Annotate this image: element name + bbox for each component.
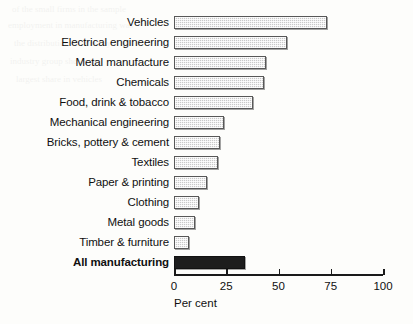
axis-tick xyxy=(226,269,228,275)
axis-tick-label: 50 xyxy=(272,280,285,292)
category-label: Electrical engineering xyxy=(61,33,169,53)
bar-row: Food, drink & tobacco xyxy=(0,93,413,113)
bar-track xyxy=(174,153,404,173)
bar-track xyxy=(174,53,404,73)
bar xyxy=(174,216,195,229)
bar-row: Chemicals xyxy=(0,73,413,93)
category-label: Mechanical engineering xyxy=(50,113,169,133)
bar-row: All manufacturing xyxy=(0,253,413,273)
bar-track xyxy=(174,213,404,233)
bar xyxy=(174,116,224,129)
bar-row: Metal manufacture xyxy=(0,53,413,73)
axis-tick xyxy=(331,269,333,275)
category-label: Metal goods xyxy=(107,213,169,233)
bar-row: Bricks, pottery & cement xyxy=(0,133,413,153)
bar xyxy=(174,236,189,249)
bar xyxy=(174,196,199,209)
bar-track xyxy=(174,33,404,53)
axis-tick xyxy=(279,269,281,275)
axis-tick-label: 0 xyxy=(171,280,177,292)
bar xyxy=(174,16,327,29)
bar xyxy=(174,136,220,149)
bar-row: Textiles xyxy=(0,153,413,173)
x-axis: 0255075100 xyxy=(174,274,383,275)
bar-track xyxy=(174,13,404,33)
bar xyxy=(174,96,253,109)
axis-tick xyxy=(383,269,385,275)
bar-track xyxy=(174,73,404,93)
bar xyxy=(174,56,266,69)
category-label: Timber & furniture xyxy=(79,233,169,253)
bar-row: Paper & printing xyxy=(0,173,413,193)
bar-rows: VehiclesElectrical engineeringMetal manu… xyxy=(0,13,413,273)
category-label: Clothing xyxy=(128,193,169,213)
axis-tick-label: 25 xyxy=(220,280,233,292)
bar-track xyxy=(174,133,404,153)
category-label: Textiles xyxy=(131,153,169,173)
category-label: Bricks, pottery & cement xyxy=(47,133,169,153)
category-label: Food, drink & tobacco xyxy=(59,93,169,113)
bar-track xyxy=(174,93,404,113)
bar xyxy=(174,156,218,169)
bar-track xyxy=(174,193,404,213)
x-axis-title: Per cent xyxy=(174,297,217,309)
axis-tick-label: 75 xyxy=(324,280,337,292)
bar-row: Metal goods xyxy=(0,213,413,233)
bar xyxy=(174,36,287,49)
category-label: Vehicles xyxy=(127,13,169,33)
bar-row: Electrical engineering xyxy=(0,33,413,53)
bar-track xyxy=(174,253,404,273)
category-label: Metal manufacture xyxy=(75,53,169,73)
axis-tick-label: 100 xyxy=(373,280,392,292)
axis-tick xyxy=(174,269,176,275)
category-label: All manufacturing xyxy=(73,253,169,273)
bar-row: Vehicles xyxy=(0,13,413,33)
bar-track xyxy=(174,113,404,133)
bar-chart-figure: of the small firms in the sample employm… xyxy=(0,0,413,324)
bar-track xyxy=(174,173,404,193)
category-label: Paper & printing xyxy=(88,173,169,193)
bar-track xyxy=(174,233,404,253)
bar xyxy=(174,256,245,269)
bar-row: Mechanical engineering xyxy=(0,113,413,133)
bar xyxy=(174,176,207,189)
bar-row: Clothing xyxy=(0,193,413,213)
category-label: Chemicals xyxy=(116,73,169,93)
bar xyxy=(174,76,264,89)
bar-row: Timber & furniture xyxy=(0,233,413,253)
